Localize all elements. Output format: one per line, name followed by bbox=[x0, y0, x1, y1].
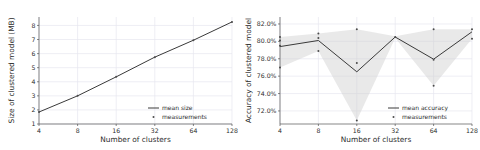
accuracy-chart-measurement-point bbox=[433, 59, 435, 61]
size-chart-xtick-label: 16 bbox=[112, 127, 120, 134]
accuracy-chart-measurement-point bbox=[279, 66, 281, 68]
accuracy-chart-legend: mean accuracymeasurements bbox=[388, 104, 448, 120]
size-chart-xlabel: Number of clusters bbox=[100, 135, 171, 144]
accuracy-chart-legend-marker-icon bbox=[393, 116, 395, 118]
size-chart-ytick-label: 3 bbox=[32, 92, 36, 99]
accuracy-chart-xtick-label: 16 bbox=[353, 127, 361, 134]
accuracy-chart-ylabel: Accuracy of clustered model bbox=[244, 18, 253, 123]
size-chart-yticks: 12345678 bbox=[32, 22, 39, 128]
size-chart-xticks: 48163264128 bbox=[37, 124, 238, 134]
size-chart-legend-measurements-label: measurements bbox=[162, 113, 207, 120]
accuracy-chart-ytick-label: 74.0% bbox=[257, 90, 277, 97]
size-chart-legend-mean-label: mean size bbox=[162, 104, 193, 111]
size-chart-axes bbox=[39, 17, 232, 124]
size-chart-svg: 12345678 48163264128 Number of clusters … bbox=[0, 0, 240, 150]
two-panel-figure: 12345678 48163264128 Number of clusters … bbox=[0, 0, 480, 150]
size-chart-ylabel: Size of clustered model (MB) bbox=[7, 17, 16, 123]
size-chart-ytick-label: 2 bbox=[32, 106, 36, 113]
accuracy-chart-measurement-point bbox=[471, 38, 473, 40]
size-chart-measurement-point bbox=[115, 76, 117, 78]
accuracy-chart-xticks: 48163264128 bbox=[278, 124, 478, 134]
accuracy-chart-xtick-label: 32 bbox=[391, 127, 399, 134]
accuracy-chart-measurement-point bbox=[317, 50, 319, 52]
accuracy-chart-panel: 72.0%74.0%76.0%78.0%80.0%82.0% 481632641… bbox=[240, 0, 480, 150]
size-chart-panel: 12345678 48163264128 Number of clusters … bbox=[0, 0, 240, 150]
accuracy-chart-ytick-label: 78.0% bbox=[257, 55, 277, 62]
accuracy-chart-legend-measurements-label: measurements bbox=[402, 113, 447, 120]
accuracy-chart-xtick-label: 8 bbox=[316, 127, 320, 134]
accuracy-chart-measurement-point bbox=[356, 120, 358, 122]
size-chart-measurement-point bbox=[231, 21, 233, 23]
size-chart-ytick-label: 7 bbox=[32, 36, 36, 43]
size-chart-legend-marker-icon bbox=[153, 116, 155, 118]
size-chart-xtick-label: 128 bbox=[226, 127, 238, 134]
accuracy-chart-measurement-point bbox=[356, 28, 358, 30]
size-chart-measurement-point bbox=[192, 39, 194, 41]
accuracy-chart-measurement-point bbox=[394, 36, 396, 38]
accuracy-chart-ytick-label: 72.0% bbox=[257, 107, 277, 114]
size-chart-measurement-point bbox=[77, 95, 79, 97]
accuracy-chart-measurement-point bbox=[471, 28, 473, 30]
accuracy-chart-legend-mean-label: mean accuracy bbox=[402, 104, 448, 112]
accuracy-chart-xlabel: Number of clusters bbox=[341, 135, 412, 144]
size-chart-ytick-label: 6 bbox=[32, 50, 36, 57]
accuracy-chart-yticks: 72.0%74.0%76.0%78.0%80.0%82.0% bbox=[257, 20, 280, 114]
size-chart-mean-line bbox=[39, 22, 232, 112]
size-chart-grid bbox=[39, 17, 232, 124]
accuracy-chart-xtick-label: 128 bbox=[466, 127, 478, 134]
accuracy-chart-ytick-label: 82.0% bbox=[257, 20, 277, 27]
accuracy-chart-ytick-label: 80.0% bbox=[257, 37, 277, 44]
accuracy-chart-measurement-point bbox=[433, 85, 435, 87]
accuracy-chart-svg: 72.0%74.0%76.0%78.0%80.0%82.0% 481632641… bbox=[240, 0, 480, 150]
accuracy-chart-measurement-point bbox=[279, 36, 281, 38]
size-chart-measurement-point bbox=[154, 56, 156, 58]
accuracy-chart-measurement-point bbox=[317, 33, 319, 35]
size-chart-ytick-label: 5 bbox=[32, 64, 36, 71]
size-chart-ytick-label: 4 bbox=[32, 78, 36, 85]
size-chart-ytick-label: 8 bbox=[32, 22, 36, 29]
size-chart-xtick-label: 64 bbox=[189, 127, 197, 134]
accuracy-chart-measurement-point bbox=[279, 45, 281, 47]
size-chart-ytick-label: 1 bbox=[32, 120, 36, 127]
accuracy-chart-ytick-label: 76.0% bbox=[257, 72, 277, 79]
size-chart-xtick-label: 8 bbox=[76, 127, 80, 134]
size-chart-xtick-label: 4 bbox=[37, 127, 41, 134]
accuracy-chart-xtick-label: 64 bbox=[430, 127, 438, 134]
size-chart-measurement-point bbox=[38, 111, 40, 113]
accuracy-chart-measurement-point bbox=[356, 62, 358, 64]
accuracy-chart-measurement-point bbox=[279, 39, 281, 41]
accuracy-chart-measurement-point bbox=[433, 28, 435, 30]
accuracy-chart-measurement-point bbox=[317, 37, 319, 39]
size-chart-legend: mean sizemeasurements bbox=[148, 104, 207, 120]
size-chart-xtick-label: 32 bbox=[151, 127, 159, 134]
accuracy-chart-xtick-label: 4 bbox=[278, 127, 282, 134]
